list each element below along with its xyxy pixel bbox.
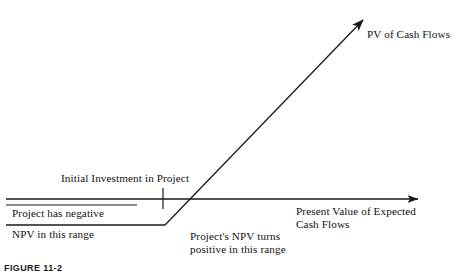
figure-caption: FIGURE 11-2 xyxy=(4,263,62,273)
label-pv-of-cash-flows: PV of Cash Flows xyxy=(367,28,450,41)
positive-turn-line2: positive in this range xyxy=(190,243,286,255)
label-positive-npv-range: Project's NPV turnspositive in this rang… xyxy=(190,230,286,256)
label-negative-npv-line2: NPV in this range xyxy=(12,228,94,241)
positive-turn-line1: Project's NPV turns xyxy=(190,230,280,242)
label-x-axis-title: Present Value of ExpectedCash Flows xyxy=(296,205,416,231)
label-initial-investment-in-project: Initial Investment in Project xyxy=(61,172,189,185)
x-axis-title-line1: Present Value of Expected xyxy=(296,205,416,217)
label-negative-npv-line1: Project has negative xyxy=(12,207,104,220)
x-axis-title-line2: Cash Flows xyxy=(296,218,350,230)
payoff-diagonal-line xyxy=(165,20,363,225)
npv-payoff-diagram: PV of Cash Flows Initial Investment in P… xyxy=(0,0,461,273)
